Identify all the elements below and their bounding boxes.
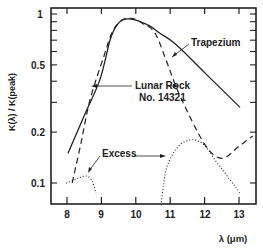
x-tick-label: 13 <box>233 209 245 220</box>
annotation-trapezium: Trapezium <box>191 37 241 48</box>
x-tick-label: 12 <box>199 209 211 220</box>
annotation-lunar-rock-id: No. 14321 <box>139 92 186 103</box>
annotation-lunar-rock: Lunar Rock <box>135 80 190 91</box>
y-axis-title: K(λ) / K(peak) <box>7 73 17 131</box>
x-tick-label: 11 <box>165 209 176 220</box>
chart: 1 0.5 0.2 0.1 8 9 10 11 12 13 λ (μm) K(λ… <box>0 0 263 249</box>
x-tick-label: 9 <box>98 209 104 220</box>
y-tick-label: 0.2 <box>31 127 45 138</box>
y-tick-label: 0.5 <box>31 60 45 71</box>
y-tick-label: 0.1 <box>31 178 45 189</box>
x-tick-label: 8 <box>64 209 70 220</box>
y-tick-label: 1 <box>37 9 43 20</box>
arrowhead-icon <box>160 154 166 158</box>
chart-svg: 1 0.5 0.2 0.1 8 9 10 11 12 13 λ (μm) K(λ… <box>0 0 263 249</box>
series-line-excess-8-9-m- <box>66 176 96 193</box>
x-tick-label: 10 <box>130 209 142 220</box>
series-line-excess-11-13-m- <box>161 140 240 205</box>
x-axis-title: λ (μm) <box>219 233 248 244</box>
arrowhead-icon <box>172 52 177 57</box>
annotation-excess: Excess <box>102 148 137 159</box>
